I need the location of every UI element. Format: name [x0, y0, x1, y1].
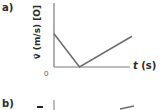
origin-label: 0: [44, 69, 48, 78]
y-axis-label: v⃗ (m/s) [O]: [32, 5, 42, 59]
x-axis-unit: (s): [138, 60, 157, 71]
x-axis-label: t (s): [133, 60, 156, 71]
velocity-line: [54, 34, 132, 67]
panel-b-line-fragment: [120, 106, 134, 109]
panel-b-label: b): [2, 98, 14, 109]
panel-b-vector-mark: [37, 106, 43, 108]
velocity-time-graph: [0, 0, 161, 110]
